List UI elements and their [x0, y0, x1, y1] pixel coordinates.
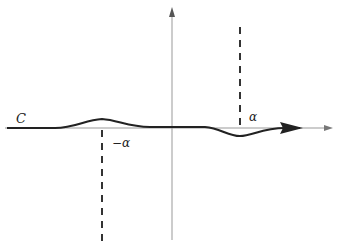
minus-alpha-label: −α [112, 137, 130, 149]
contour-direction-arrow-icon [280, 122, 303, 134]
contour-label: C [16, 112, 26, 125]
real-axis-arrow-icon [324, 125, 333, 131]
imaginary-axis-arrow-icon [169, 7, 175, 17]
alpha-label: α [249, 111, 257, 123]
contour-diagram [0, 0, 340, 249]
